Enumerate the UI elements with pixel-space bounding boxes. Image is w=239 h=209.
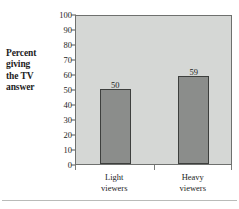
footer-rule <box>2 200 237 201</box>
bar <box>178 76 209 165</box>
category-label-line: Heavy <box>180 172 206 183</box>
category-separator-tick <box>231 165 232 170</box>
plot-area: 5059 <box>75 15 232 165</box>
category-separator-tick <box>154 165 155 170</box>
category-label-line: viewers <box>101 183 127 194</box>
bar-value-label: 50 <box>111 80 120 90</box>
bar <box>100 89 131 164</box>
y-axis-tick-labels: 1009080706050403020100 <box>50 15 72 165</box>
category-label: Heavyviewers <box>180 172 206 193</box>
bar-chart-figure: Percent giving the TV answer 10090807060… <box>0 0 239 209</box>
category-label: Lightviewers <box>101 172 127 193</box>
category-label-line: viewers <box>180 183 206 194</box>
category-axis: LightviewersHeavyviewers <box>75 165 232 203</box>
bar-value-label: 59 <box>190 67 199 77</box>
category-label-line: Light <box>101 172 127 183</box>
category-separator-tick <box>75 165 76 170</box>
